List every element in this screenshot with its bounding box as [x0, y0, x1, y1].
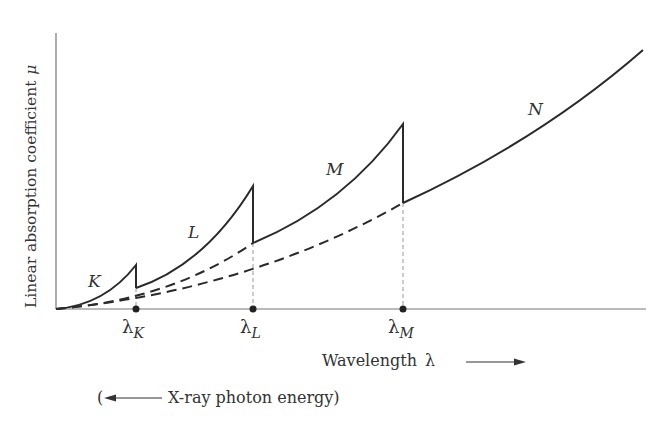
- curve-label-m: M: [325, 159, 344, 179]
- energy-open-paren: (: [97, 388, 103, 407]
- curve-m: [253, 124, 403, 243]
- x-axis-label: Wavelengthλ: [322, 351, 435, 370]
- y-axis-label: Linear absorption coefficientμ: [22, 65, 40, 308]
- curve-label-k: K: [87, 271, 102, 291]
- curve-label-n: N: [527, 99, 544, 119]
- curve-label-l: L: [187, 222, 199, 242]
- edge-dot-m: [400, 306, 407, 313]
- absorption-edge-diagram: K L M N λK λL λM Linear absorption coeff…: [0, 0, 654, 432]
- edge-label-l: λL: [240, 316, 261, 341]
- edge-dot-k: [133, 306, 140, 313]
- curve-n: [403, 50, 643, 203]
- energy-label: X-ray photon energy): [168, 388, 340, 407]
- edge-label-m: λM: [388, 316, 414, 341]
- arrow-right-icon: [514, 359, 526, 366]
- dashed-extrapolation-l: [56, 243, 253, 309]
- edge-label-k: λK: [122, 316, 145, 341]
- edge-dot-l: [250, 306, 257, 313]
